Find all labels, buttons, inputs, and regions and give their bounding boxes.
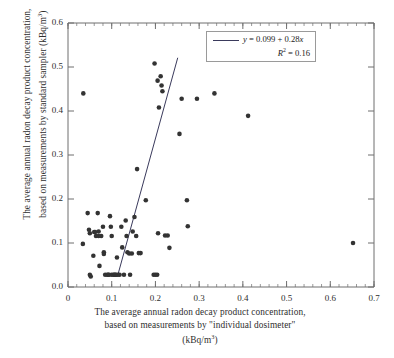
data-point [159, 83, 164, 88]
x-axis-unit-close: ) [215, 335, 218, 345]
data-point [185, 224, 190, 229]
data-point [96, 229, 101, 234]
data-point [135, 167, 140, 172]
legend: y = 0.099 + 0.28x R2 = 0.16 [206, 31, 316, 62]
data-point [109, 234, 114, 239]
legend-line-swatch [213, 40, 239, 41]
x-axis-title-line3: (kBq/m3) [30, 331, 370, 347]
data-point [152, 61, 157, 66]
data-point [158, 74, 163, 79]
x-tick-label: 0.6 [315, 293, 345, 303]
data-point [155, 272, 160, 277]
data-point [102, 252, 107, 257]
x-tick-label: 0.4 [228, 293, 258, 303]
data-point [138, 251, 143, 256]
data-point [120, 245, 125, 250]
data-point [132, 215, 137, 220]
regression-line [118, 58, 177, 274]
data-point [195, 96, 200, 101]
data-point [185, 198, 190, 203]
legend-equation-body: = 0.099 + 0.28 [247, 34, 300, 44]
data-point [85, 211, 90, 216]
legend-equation: y = 0.099 + 0.28x [243, 34, 303, 44]
legend-equation-x: x [300, 34, 304, 44]
data-point [167, 246, 172, 251]
x-axis-unit-open: (kBq/m [182, 335, 211, 345]
data-point [165, 233, 170, 238]
data-point [108, 214, 113, 219]
data-point [123, 218, 128, 223]
x-tick-label: 0.3 [184, 293, 214, 303]
data-point [134, 234, 139, 239]
data-point [81, 242, 86, 247]
axes [68, 23, 374, 287]
y-tick-label: 0.0 [41, 281, 63, 291]
data-point [130, 229, 135, 234]
x-tick-label: 0 [53, 293, 83, 303]
data-point [122, 272, 127, 277]
data-point [157, 105, 162, 110]
data-point [128, 272, 133, 277]
data-point [144, 198, 149, 203]
legend-r-value: = 0.16 [286, 48, 310, 58]
data-point [160, 89, 165, 94]
legend-r-squared: R2 = 0.16 [278, 47, 310, 58]
data-point [99, 234, 104, 239]
x-tick-label: 0.1 [97, 293, 127, 303]
data-point [177, 132, 182, 137]
data-point [130, 251, 135, 256]
data-point [88, 274, 93, 279]
x-tick-label: 0.2 [140, 293, 170, 303]
x-tick-label: 0.7 [359, 293, 389, 303]
y-axis-title-line1: The average annual radon decay product c… [21, 0, 34, 259]
y-axis-title-line2-text: based on measurements by standard sample… [38, 17, 48, 218]
data-point [155, 78, 160, 83]
data-point [179, 96, 184, 101]
data-point [246, 114, 251, 119]
x-tick-label: 0.5 [272, 293, 302, 303]
data-point [117, 272, 122, 277]
regression-line-segment [118, 58, 177, 274]
plot-canvas [0, 0, 394, 358]
data-points [81, 61, 356, 279]
y-axis-unit-exponent: 3 [35, 14, 42, 17]
data-point [97, 264, 102, 269]
x-axis-title-line1: The average annual radon decay product c… [30, 306, 370, 319]
data-point [109, 224, 114, 229]
y-axis-title: The average annual radon decay product c… [21, 0, 49, 259]
data-point [212, 91, 217, 96]
x-axis-title-line2: based on measurements by "individual dos… [30, 319, 370, 332]
data-point [95, 211, 100, 216]
axis-ticks [68, 23, 374, 287]
y-axis-title-line2: based on measurements by standard sample… [33, 0, 49, 259]
data-point [124, 234, 129, 239]
data-point [119, 224, 124, 229]
scatter-plot-figure: 0.00.10.20.30.40.50.6 00.10.20.30.40.50.… [0, 0, 394, 358]
data-point [156, 231, 161, 236]
y-axis-unit-close: ) [38, 10, 48, 13]
data-point [91, 253, 96, 258]
data-point [88, 231, 93, 236]
x-axis-title: The average annual radon decay product c… [30, 306, 370, 347]
data-point [81, 91, 86, 96]
data-point [115, 255, 120, 260]
data-point [101, 224, 106, 229]
data-point [351, 241, 356, 246]
